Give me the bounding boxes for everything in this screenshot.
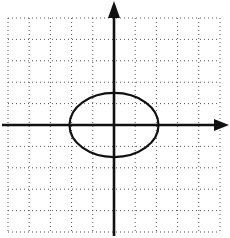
axes <box>2 1 229 236</box>
coordinate-graph <box>0 0 230 238</box>
x-axis-arrow-icon <box>214 119 229 131</box>
y-axis-arrow-icon <box>108 1 120 18</box>
